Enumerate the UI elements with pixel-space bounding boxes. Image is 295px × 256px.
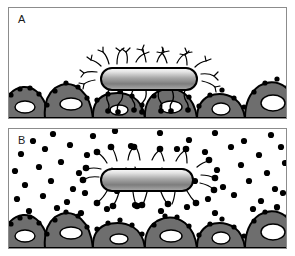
cell-nucleus xyxy=(160,230,182,242)
soluble-inhibitor xyxy=(214,167,220,173)
surface-receptor xyxy=(174,214,179,219)
soluble-inhibitor xyxy=(228,144,234,150)
soluble-inhibitor xyxy=(212,210,218,216)
soluble-inhibitor xyxy=(48,178,54,184)
soluble-inhibitor-bound xyxy=(165,201,172,208)
surface-receptor xyxy=(186,94,191,99)
cell-nucleus xyxy=(15,230,35,242)
soluble-inhibitor xyxy=(274,204,280,210)
surface-receptor xyxy=(139,231,144,236)
soluble-inhibitor xyxy=(40,193,46,199)
soluble-inhibitor xyxy=(18,151,24,157)
surface-receptor xyxy=(241,233,246,238)
surface-receptor xyxy=(231,95,236,100)
panel-a-stage xyxy=(9,8,286,118)
surface-receptor xyxy=(94,97,99,102)
soluble-inhibitor xyxy=(186,137,192,143)
soluble-inhibitor xyxy=(14,196,20,202)
surface-receptor xyxy=(162,213,167,218)
receptor-bound xyxy=(185,107,191,113)
soluble-inhibitor xyxy=(184,204,190,210)
surface-receptor xyxy=(196,232,201,237)
soluble-inhibitor-bound xyxy=(157,146,164,153)
cell-nucleus xyxy=(212,232,230,244)
surface-receptor xyxy=(27,214,32,219)
surface-receptor xyxy=(27,85,32,90)
surface-receptor xyxy=(63,209,68,214)
soluble-inhibitor-bound xyxy=(80,177,87,184)
panel-b-stage xyxy=(9,129,286,248)
surface-receptor xyxy=(17,86,22,91)
surface-receptor xyxy=(117,217,122,222)
soluble-inhibitor xyxy=(280,190,286,196)
soluble-inhibitor-bound xyxy=(212,175,219,182)
surface-receptor xyxy=(186,223,191,228)
panel-b-svg xyxy=(9,129,286,248)
soluble-inhibitor xyxy=(256,152,262,158)
soluble-inhibitor xyxy=(278,144,284,150)
surface-receptor xyxy=(196,103,201,108)
soluble-inhibitor xyxy=(282,160,286,166)
soluble-inhibitor xyxy=(174,146,180,152)
surface-receptor xyxy=(151,222,156,227)
surface-receptor xyxy=(105,220,110,225)
soluble-inhibitor xyxy=(272,186,278,192)
soluble-inhibitor xyxy=(258,198,264,204)
surface-receptor xyxy=(219,216,224,221)
figure-container: A xyxy=(0,0,295,256)
bacterium-body xyxy=(101,68,197,90)
soluble-inhibitor xyxy=(12,168,18,174)
surface-receptor xyxy=(129,222,134,227)
surface-receptor xyxy=(251,89,256,94)
cell-nucleus xyxy=(60,227,82,239)
surface-receptor xyxy=(52,217,57,222)
soluble-inhibitor-bound xyxy=(183,146,190,153)
panel-a-svg xyxy=(9,8,286,118)
soluble-inhibitor-bound xyxy=(83,165,90,172)
surface-receptor xyxy=(262,80,267,85)
soluble-inhibitor xyxy=(250,206,256,212)
receptor-bound xyxy=(139,109,145,115)
receptor-bound xyxy=(168,108,174,114)
surface-receptor xyxy=(231,224,236,229)
soluble-inhibitor-bound xyxy=(110,203,117,210)
soluble-inhibitor xyxy=(157,130,163,136)
soluble-inhibitor-bound xyxy=(108,144,115,151)
soluble-inhibitor xyxy=(36,164,42,170)
soluble-inhibitor xyxy=(268,132,274,138)
soluble-inhibitor xyxy=(78,210,84,216)
cell-nucleus xyxy=(212,103,230,115)
soluble-inhibitor xyxy=(26,208,32,214)
cell-nucleus xyxy=(110,234,128,244)
soluble-inhibitor xyxy=(264,170,270,176)
receptor-bound xyxy=(158,108,164,114)
cell-nucleus xyxy=(261,224,285,240)
soluble-inhibitor xyxy=(241,138,247,144)
soluble-inhibitor xyxy=(202,149,208,155)
surface-receptor xyxy=(52,88,57,93)
soluble-inhibitor xyxy=(82,190,88,196)
soluble-inhibitor xyxy=(238,162,244,168)
surface-receptor xyxy=(151,93,156,98)
surface-receptor xyxy=(207,92,212,97)
soluble-inhibitor xyxy=(30,138,36,144)
soluble-inhibitor xyxy=(231,192,237,198)
soluble-inhibitor xyxy=(67,142,73,148)
soluble-inhibitor-bound xyxy=(94,149,101,156)
soluble-inhibitor xyxy=(58,159,64,165)
soluble-inhibitor xyxy=(205,196,211,202)
soluble-inhibitor xyxy=(212,130,218,136)
soluble-inhibitor xyxy=(104,206,110,212)
soluble-inhibitor xyxy=(42,146,48,152)
receptor-bound xyxy=(115,109,121,115)
surface-receptor xyxy=(262,209,267,214)
soluble-inhibitor-bound xyxy=(206,157,213,164)
surface-receptor xyxy=(63,80,68,85)
soluble-inhibitor-bound xyxy=(139,202,146,209)
surface-receptor xyxy=(36,91,41,96)
surface-receptor xyxy=(84,224,89,229)
bacterium-inhibited xyxy=(80,144,219,210)
surface-receptor xyxy=(84,95,89,100)
surface-receptor xyxy=(17,215,22,220)
panel-a: A xyxy=(8,7,287,119)
